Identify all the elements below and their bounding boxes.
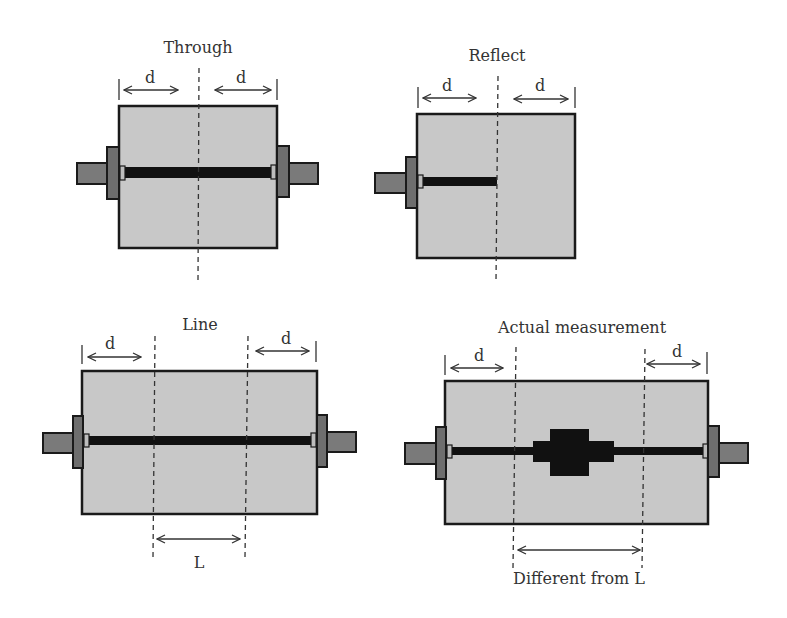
actual-title: Actual measurement xyxy=(497,318,667,337)
actual-length-label: Different from L xyxy=(513,569,645,588)
actual-measurement-panel: Actual measurement d d Different from L xyxy=(405,318,748,588)
line-left-connector-pin xyxy=(43,433,73,453)
through-title: Through xyxy=(163,38,232,57)
actual-right-connector-pin xyxy=(719,443,748,463)
line-panel: Line d d L xyxy=(43,315,356,572)
through-right-connector-pin xyxy=(289,163,318,184)
actual-left-connector-flange xyxy=(436,427,446,479)
through-left-connector-tab xyxy=(120,166,125,180)
line-trace xyxy=(86,436,313,445)
through-panel: Through d d xyxy=(77,38,318,281)
reflect-connector-tab xyxy=(418,175,423,188)
actual-left-d-label: d xyxy=(474,346,484,365)
actual-discontinuity-tall xyxy=(550,429,589,476)
through-right-connector-tab xyxy=(271,165,276,179)
line-right-d-label: d xyxy=(281,329,291,348)
reflect-open-trace xyxy=(421,177,497,186)
line-left-d-label: d xyxy=(105,334,115,353)
actual-right-d-label: d xyxy=(672,342,682,361)
reflect-connector-pin xyxy=(375,173,406,193)
through-left-connector-flange xyxy=(107,147,119,199)
through-right-connector-flange xyxy=(277,146,289,197)
line-right-connector-tab xyxy=(311,433,316,447)
reflect-connector-flange xyxy=(406,157,417,208)
reflect-title: Reflect xyxy=(468,46,526,65)
actual-left-connector-tab xyxy=(447,445,452,458)
actual-left-connector-pin xyxy=(405,443,436,464)
through-right-d-label: d xyxy=(236,68,246,87)
reflect-left-d-label: d xyxy=(442,76,452,95)
line-right-connector-flange xyxy=(317,415,327,467)
line-right-connector-pin xyxy=(327,432,356,452)
reflect-panel: Reflect d d xyxy=(375,46,575,281)
line-left-connector-flange xyxy=(73,416,83,468)
actual-right-connector-flange xyxy=(708,426,719,477)
trl-calibration-diagram: Through d d Reflect d d Line xyxy=(0,0,787,618)
line-length-label: L xyxy=(194,553,205,572)
reflect-right-d-label: d xyxy=(535,76,545,95)
through-left-connector-pin xyxy=(77,163,107,184)
line-title: Line xyxy=(182,315,218,334)
line-left-connector-tab xyxy=(84,434,89,447)
through-left-d-label: d xyxy=(145,68,155,87)
